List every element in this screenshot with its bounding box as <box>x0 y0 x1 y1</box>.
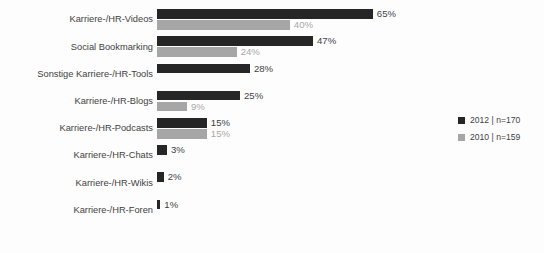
bar-2010[interactable]: 40% <box>157 20 313 30</box>
legend-item-2012[interactable]: 2012 | n=170 <box>458 112 520 129</box>
chart-row: Karriere-/HR-Foren1% <box>0 196 544 223</box>
bar-value-label-2012: 1% <box>164 200 178 210</box>
bar-value-label-2012: 28% <box>254 64 273 74</box>
category-label: Social Bookmarking <box>0 42 157 52</box>
category-label: Karriere-/HR-Wikis <box>0 178 157 188</box>
bar-group: 1% <box>157 196 544 223</box>
bar-2012[interactable]: 1% <box>157 200 178 210</box>
bar-group: 25%9% <box>157 88 544 115</box>
chart-row: Social Bookmarking47%24% <box>0 33 544 60</box>
legend-label-2012: 2012 | n=170 <box>470 116 520 125</box>
legend-item-2010[interactable]: 2010 | n=159 <box>458 129 520 146</box>
bar-value-label-2012: 25% <box>244 91 263 101</box>
category-label: Karriere-/HR-Blogs <box>0 96 157 106</box>
bar-rect-2010 <box>157 47 237 57</box>
bar-value-label-2010: 40% <box>294 20 313 30</box>
chart-row: Karriere-/HR-Chats3% <box>0 142 544 169</box>
bar-rect-2012 <box>157 172 164 182</box>
bar-rect-2012 <box>157 118 207 128</box>
bar-group: 3% <box>157 142 544 169</box>
bar-rect-2012 <box>157 64 250 74</box>
bar-rect-2012 <box>157 200 160 210</box>
category-label: Sonstige Karriere-/HR-Tools <box>0 69 157 79</box>
legend-swatch-2012-icon <box>458 117 465 124</box>
category-label: Karriere-/HR-Videos <box>0 14 157 24</box>
bar-group: 65%40% <box>157 6 544 33</box>
bar-2012[interactable]: 47% <box>157 36 336 46</box>
bar-value-label-2012: 65% <box>377 9 396 19</box>
bar-rect-2012 <box>157 145 167 155</box>
bar-group: 47%24% <box>157 33 544 60</box>
chart-legend: 2012 | n=170 2010 | n=159 <box>458 112 520 146</box>
category-label: Karriere-/HR-Podcasts <box>0 123 157 133</box>
bar-value-label-2012: 47% <box>317 36 336 46</box>
bar-value-label-2010: 9% <box>191 102 205 112</box>
bar-rect-2012 <box>157 9 373 19</box>
chart-row: Karriere-/HR-Wikis2% <box>0 169 544 196</box>
bar-value-label-2012: 3% <box>171 145 185 155</box>
bar-group: 28% <box>157 60 544 87</box>
bar-value-label-2012: 2% <box>168 172 182 182</box>
legend-swatch-2010-icon <box>458 134 465 141</box>
bar-2010[interactable]: 24% <box>157 47 260 57</box>
chart-row: Karriere-/HR-Blogs25%9% <box>0 88 544 115</box>
legend-label-2010: 2010 | n=159 <box>470 133 520 142</box>
bar-rect-2010 <box>157 102 187 112</box>
bar-rect-2012 <box>157 91 240 101</box>
bar-value-label-2010: 24% <box>241 47 260 57</box>
bar-2012[interactable]: 25% <box>157 91 263 101</box>
bar-chart: Karriere-/HR-Videos65%40%Social Bookmark… <box>0 0 544 253</box>
bar-value-label-2010: 15% <box>211 129 230 139</box>
bar-2012[interactable]: 3% <box>157 145 185 155</box>
bar-2012[interactable]: 15% <box>157 118 230 128</box>
chart-row: Sonstige Karriere-/HR-Tools28% <box>0 60 544 87</box>
category-label: Karriere-/HR-Foren <box>0 205 157 215</box>
bar-rect-2010 <box>157 20 290 30</box>
bar-rect-2012 <box>157 36 313 46</box>
bar-2010[interactable]: 9% <box>157 102 205 112</box>
bar-2012[interactable]: 65% <box>157 9 396 19</box>
bar-2010[interactable]: 15% <box>157 129 230 139</box>
bar-value-label-2012: 15% <box>211 118 230 128</box>
bar-group: 2% <box>157 169 544 196</box>
category-label: Karriere-/HR-Chats <box>0 150 157 160</box>
bar-2012[interactable]: 28% <box>157 64 273 74</box>
bar-2012[interactable]: 2% <box>157 172 182 182</box>
chart-row: Karriere-/HR-Videos65%40% <box>0 6 544 33</box>
bar-rect-2010 <box>157 129 207 139</box>
